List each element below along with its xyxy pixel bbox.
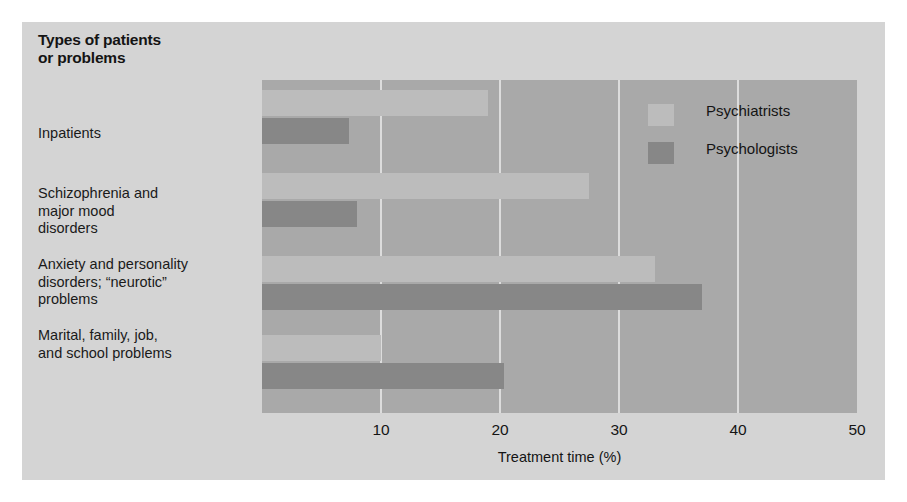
chart-title-line: Types of patients <box>38 31 253 49</box>
category-label-3: Marital, family, job,and school problems <box>38 327 256 362</box>
category-label-1: Schizophrenia andmajor mooddisorders <box>38 185 256 238</box>
category-label-line: disorders <box>38 220 256 238</box>
x-tick-30: 30 <box>599 421 639 439</box>
x-tick-40: 40 <box>718 421 758 439</box>
x-tick-10: 10 <box>361 421 401 439</box>
chart-title: Types of patientsor problems <box>38 31 253 67</box>
x-axis-label: Treatment time (%) <box>262 449 857 465</box>
chart-figure: Types of patientsor problems InpatientsS… <box>0 0 907 502</box>
gridline <box>618 80 620 413</box>
category-label-line: disorders; “neurotic” <box>38 274 256 292</box>
category-label-0: Inpatients <box>38 125 256 143</box>
category-label-line: Marital, family, job, <box>38 327 256 345</box>
bar-1-0 <box>262 118 349 144</box>
bar-1-1 <box>262 201 357 227</box>
chart-legend: PsychiatristsPsychologists <box>648 100 848 176</box>
category-label-line: Schizophrenia and <box>38 185 256 203</box>
category-label-line: major mood <box>38 203 256 221</box>
category-label-line: Inpatients <box>38 125 256 143</box>
legend-swatch-1 <box>648 142 674 164</box>
bar-0-2 <box>262 256 655 282</box>
category-label-line: Anxiety and personality <box>38 256 256 274</box>
bar-1-3 <box>262 363 504 389</box>
legend-label-1: Psychologists <box>706 140 798 157</box>
x-tick-20: 20 <box>480 421 520 439</box>
category-label-2: Anxiety and personalitydisorders; “neuro… <box>38 256 256 309</box>
legend-item-0: Psychiatrists <box>648 100 848 138</box>
bar-0-1 <box>262 173 589 199</box>
bar-1-2 <box>262 284 702 310</box>
legend-swatch-0 <box>648 104 674 126</box>
category-label-line: and school problems <box>38 345 256 363</box>
chart-title-line: or problems <box>38 49 253 67</box>
bar-0-0 <box>262 90 488 116</box>
bar-0-3 <box>262 335 381 361</box>
x-tick-50: 50 <box>837 421 877 439</box>
legend-label-0: Psychiatrists <box>706 102 790 119</box>
category-label-line: problems <box>38 291 256 309</box>
legend-item-1: Psychologists <box>648 138 848 176</box>
